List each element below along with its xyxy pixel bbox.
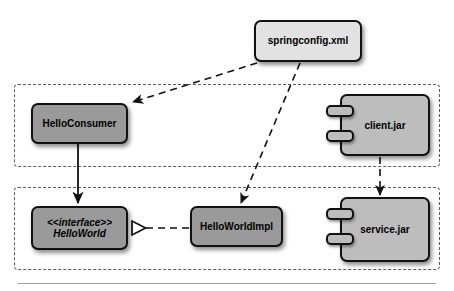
helloworldimpl-class[interactable]: HelloWorldImpl: [190, 206, 283, 247]
component-tab-icon: [326, 130, 354, 142]
helloworldimpl-label: HelloWorldImpl: [200, 221, 273, 233]
client-jar-body: client.jar: [340, 94, 430, 156]
uml-diagram-canvas: springconfig.xml HelloConsumer <<interfa…: [0, 0, 454, 291]
helloworld-name: HelloWorld: [47, 228, 112, 240]
helloconsumer-class[interactable]: HelloConsumer: [31, 103, 128, 144]
edge-springconfig-to-helloconsumer: [133, 63, 257, 102]
service-jar-component[interactable]: service.jar: [326, 197, 430, 262]
springconfig-xml-artifact[interactable]: springconfig.xml: [254, 20, 362, 62]
page-separator-rule: [18, 283, 436, 284]
component-tab-icon: [326, 233, 354, 245]
helloconsumer-label: HelloConsumer: [43, 118, 117, 130]
client-jar-label: client.jar: [364, 120, 405, 131]
client-jar-component[interactable]: client.jar: [326, 94, 430, 156]
component-tab-icon: [326, 208, 354, 220]
component-tab-icon: [326, 105, 354, 117]
helloworld-interface[interactable]: <<interface>> HelloWorld: [31, 206, 128, 250]
service-jar-body: service.jar: [340, 197, 430, 262]
helloworld-label-stack: <<interface>> HelloWorld: [47, 217, 112, 240]
edge-springconfig-to-helloworldimpl: [241, 63, 300, 203]
helloworld-stereotype: <<interface>>: [47, 217, 112, 229]
service-jar-label: service.jar: [360, 224, 410, 235]
springconfig-xml-label: springconfig.xml: [268, 35, 349, 47]
